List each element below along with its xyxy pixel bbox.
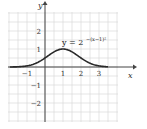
axes: [8, 1, 137, 122]
x-axis-label: x: [128, 71, 133, 80]
y-tick-label: −2: [31, 100, 41, 108]
x-tick-label: −1: [22, 70, 32, 78]
equation-base: y = 2: [61, 38, 83, 47]
y-tick-label: 2: [37, 28, 41, 36]
y-tick-label: −1: [31, 82, 41, 90]
y-axis-arrow-icon: [43, 1, 48, 5]
equation-annotation: y = 2 −(x−1)²: [61, 36, 106, 47]
y-tick-label: 1: [37, 46, 41, 54]
x-tick-label: 3: [97, 70, 101, 78]
equation-exponent: −(x−1)²: [86, 36, 106, 42]
x-tick-label: 1: [61, 70, 65, 78]
x-tick-label: 2: [79, 70, 83, 78]
function-graph: −112321−1−2 y = 2 −(x−1)² x y: [0, 0, 147, 129]
x-axis-arrow-icon: [133, 65, 137, 70]
y-axis-label: y: [37, 1, 43, 10]
